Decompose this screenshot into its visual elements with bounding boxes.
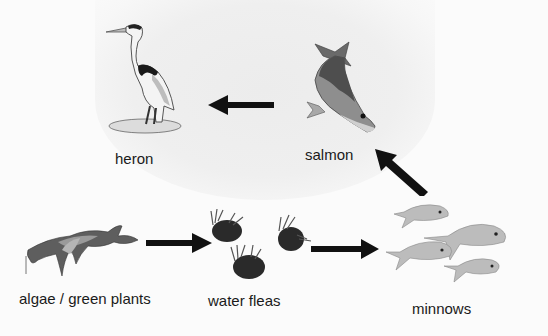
arrow-algae-to-water-fleas xyxy=(146,232,214,254)
salmon-icon xyxy=(305,40,385,140)
water-flea-icon xyxy=(205,205,315,285)
heron-icon xyxy=(100,22,185,137)
minnow-icon xyxy=(384,200,534,290)
arrow-minnows-to-salmon xyxy=(372,146,432,196)
salmon-label: salmon xyxy=(305,146,353,163)
minnows-label: minnows xyxy=(412,300,471,317)
arrow-salmon-to-heron xyxy=(206,94,276,116)
arrow-water-fleas-to-minnows xyxy=(311,238,381,260)
algae-label: algae / green plants xyxy=(19,290,151,307)
heron-label: heron xyxy=(115,150,153,167)
algae-icon xyxy=(18,220,143,280)
water-fleas-label: water fleas xyxy=(208,292,281,309)
